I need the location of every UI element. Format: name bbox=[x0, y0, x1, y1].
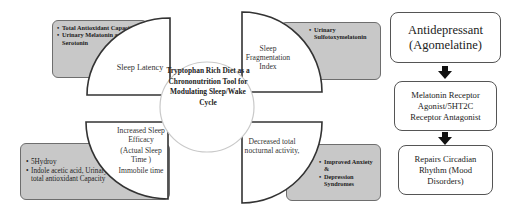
label-line: Increased Sleep Efficacy bbox=[114, 126, 168, 144]
flow-box-text: Repairs Circadian Rhythm (Mood Disorders… bbox=[409, 154, 482, 187]
center-title: Tryptophan Rich Diet as a Chrononutritio… bbox=[166, 66, 250, 108]
down-arrow-icon bbox=[438, 132, 452, 145]
quadrant-bottom-right bbox=[242, 122, 322, 203]
quadrant-label-sleep-latency: Sleep Latency bbox=[110, 63, 170, 72]
flow-box-antidepressant: Antidepressant (Agomelatine) bbox=[390, 12, 501, 63]
label-line: Immobile time bbox=[114, 166, 168, 175]
flow-box-circadian: Repairs Circadian Rhythm (Mood Disorders… bbox=[398, 145, 493, 195]
quadrant-label-nocturnal-activity: Decreased total nocturnal activity, bbox=[244, 137, 300, 155]
flow-box-text: Antidepressant (Agomelatine) bbox=[397, 23, 494, 53]
quadrant-label-sleep-efficacy: Increased Sleep Efficacy (Actual Sleep T… bbox=[114, 126, 168, 175]
quadrant-label-sleep-fragmentation: Sleep Fragmentation Index bbox=[244, 44, 292, 71]
flow-box-receptor: Melatonin Receptor Agonist/5HT2C Recepto… bbox=[394, 81, 497, 131]
quadrant-top-left bbox=[87, 18, 170, 95]
label-line: (Actual Sleep Time ) bbox=[114, 146, 168, 164]
flow-box-text: Melatonin Receptor Agonist/5HT2C Recepto… bbox=[403, 90, 488, 123]
down-arrow-icon bbox=[438, 66, 452, 79]
